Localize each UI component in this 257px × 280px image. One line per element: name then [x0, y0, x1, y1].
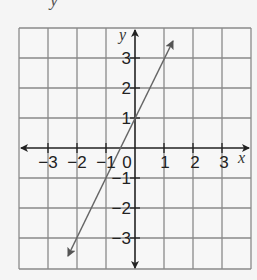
- y-tick-label: −3: [112, 229, 131, 248]
- y-tick-label: 1: [122, 109, 131, 128]
- x-tick-label: 2: [190, 153, 199, 172]
- y-tick-label: 2: [122, 79, 131, 98]
- x-tick-label: 3: [219, 153, 228, 172]
- x-tick-label: 1: [160, 153, 169, 172]
- y-tick-label: −2: [112, 199, 131, 218]
- x-axis-label: x: [237, 149, 245, 166]
- y-axis-label: y: [117, 26, 127, 44]
- coordinate-plane: y: [0, 0, 257, 280]
- y-tick-label: −1: [112, 169, 131, 188]
- x-tick-label: −3: [38, 153, 57, 172]
- y-tick-label: 3: [122, 49, 131, 68]
- x-tick-label: −2: [67, 153, 86, 172]
- cropped-heading-fragment: y: [48, 0, 58, 10]
